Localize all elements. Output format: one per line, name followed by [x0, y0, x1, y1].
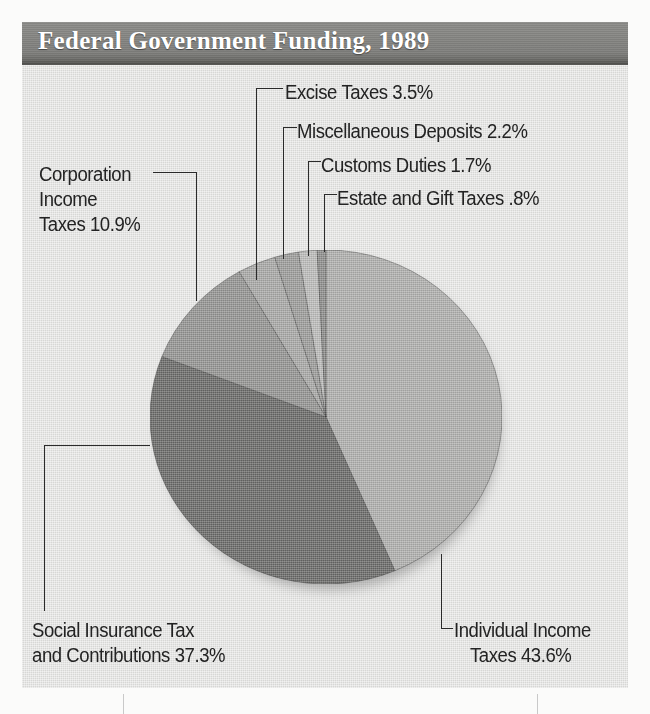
- title-banner: Federal Government Funding, 1989: [22, 22, 628, 65]
- label-social-insurance-line1: Social Insurance Tax: [32, 618, 194, 643]
- pie-chart: [150, 250, 510, 590]
- scan-tick-mark-left: [123, 694, 124, 714]
- label-corporation-income-taxes-line3: Taxes 10.9%: [39, 212, 140, 237]
- page-title: Federal Government Funding, 1989: [38, 27, 430, 55]
- pie-svg: [150, 250, 502, 584]
- label-individual-income-line2: Taxes 43.6%: [470, 643, 571, 668]
- label-miscellaneous-deposits: Miscellaneous Deposits 2.2%: [297, 119, 527, 144]
- label-customs-duties: Customs Duties 1.7%: [321, 153, 491, 178]
- label-social-insurance-line2: and Contributions 37.3%: [32, 643, 225, 668]
- leader-line-misc-horizontal: [283, 127, 297, 128]
- leader-line-individual-horizontal: [441, 628, 453, 629]
- scan-tick-mark-right: [537, 694, 538, 714]
- label-individual-income-line1: Individual Income: [454, 618, 591, 643]
- label-corporation-income-taxes-line2: Income: [39, 187, 97, 212]
- leader-line-estate-horizontal: [324, 194, 337, 195]
- leader-line-corporation-horizontal: [153, 172, 196, 173]
- leader-line-customs-horizontal: [308, 161, 321, 162]
- scanned-page: Federal Government Funding, 1989 Excise …: [0, 0, 650, 714]
- leader-line-social-horizontal: [44, 445, 150, 446]
- leader-line-social-vertical: [44, 445, 45, 611]
- pie-slices-group: [150, 250, 502, 584]
- leader-line-individual-vertical: [441, 554, 442, 628]
- label-excise-taxes: Excise Taxes 3.5%: [285, 80, 433, 105]
- leader-line-misc-vertical: [283, 127, 284, 259]
- leader-line-excise-horizontal: [256, 88, 283, 89]
- label-corporation-income-taxes-line1: Corporation: [39, 162, 131, 187]
- chart-panel: Federal Government Funding, 1989 Excise …: [22, 22, 628, 688]
- label-estate-and-gift-taxes: Estate and Gift Taxes .8%: [337, 186, 539, 211]
- leader-line-excise-vertical: [256, 88, 257, 280]
- leader-line-customs-vertical: [308, 161, 309, 256]
- leader-line-corporation-vertical: [196, 172, 197, 301]
- leader-line-estate-vertical: [324, 194, 325, 252]
